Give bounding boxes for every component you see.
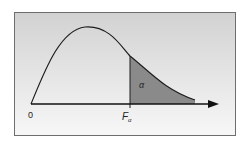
origin-label: 0 xyxy=(28,110,33,120)
f-distribution-diagram: 0 Fα α xyxy=(0,0,249,141)
alpha-area-label: α xyxy=(139,80,145,90)
